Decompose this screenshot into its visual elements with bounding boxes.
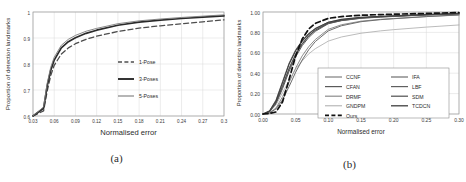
x-axis-title: Normalised error	[100, 128, 157, 137]
x-tick-label: 0.03	[29, 119, 38, 124]
y-tick-label: 0.80	[250, 30, 260, 36]
curves-group	[33, 15, 224, 116]
x-tick-label: 0.30	[454, 117, 464, 123]
legend-label-1-pose: 1-Pose	[139, 59, 156, 65]
y-axis-title: Proportion of detection landmarks	[4, 18, 11, 111]
x-tick-label: 0.18	[135, 119, 144, 124]
curve-3-poses	[33, 16, 224, 116]
x-tick-label: 0.15	[113, 119, 122, 124]
grid-lines	[33, 12, 224, 116]
panel-b: 0.000.050.100.150.200.250.300.000.200.40…	[233, 0, 466, 182]
legend-label-5-poses: 5-Poses	[139, 93, 158, 99]
y-tick-label: 0.00	[250, 112, 260, 118]
x-tick-label: 0.21	[156, 119, 165, 124]
legend-label-ifa: IFA	[412, 74, 420, 80]
x-tick-label: 0.05	[291, 117, 301, 123]
legend-label-cfan: CFAN	[346, 84, 360, 90]
legend-label-lbf: LBF	[412, 84, 422, 90]
legend-box	[318, 68, 449, 118]
curve-1-pose	[33, 20, 224, 116]
panel-a: 0.030.060.090.120.150.180.210.240.270.30…	[0, 0, 233, 182]
x-tick-label: 0.00	[258, 117, 268, 123]
panel-a-caption: (a)	[0, 152, 233, 164]
y-tick-label: 0.8	[24, 63, 31, 68]
x-tick-label: 0.09	[71, 119, 80, 124]
legend: 1-Pose3-Poses5-Poses	[118, 59, 158, 99]
chart-a-svg: 0.030.060.090.120.150.180.210.240.270.30…	[0, 0, 233, 150]
x-axis-title: Normalised error	[337, 128, 385, 135]
x-tick-label: 0.06	[50, 119, 59, 124]
legend-label-drmf: DRMF	[346, 94, 361, 100]
legend-label-ours: Ours	[346, 113, 358, 119]
legend-label-tcdcn: TCDCN	[412, 103, 430, 109]
panel-b-caption: (b)	[233, 158, 466, 170]
y-tick-label: 0.40	[250, 71, 260, 77]
figure-container: 0.030.060.090.120.150.180.210.240.270.30…	[0, 0, 466, 182]
chart-b-svg: 0.000.050.100.150.200.250.300.000.200.40…	[233, 0, 466, 150]
chart-a-plot: 0.030.060.090.120.150.180.210.240.270.30…	[0, 0, 233, 150]
y-tick-label: 0.60	[250, 50, 260, 56]
legend-label-3-poses: 3-Poses	[139, 76, 158, 82]
x-tick-label: 0.27	[198, 119, 207, 124]
legend: CCNFCFANDRMFGNDPMIFALBFSDMTCDCNOurs	[318, 68, 449, 119]
x-tick-label: 0.3	[221, 119, 228, 124]
x-tick-label: 0.24	[177, 119, 186, 124]
y-tick-label: 1	[27, 11, 30, 16]
legend-label-sdm: SDM	[412, 94, 424, 100]
y-axis-title: Proportion of detection landmarks	[236, 20, 242, 107]
y-tick-label: 0.7	[24, 89, 31, 94]
legend-label-ccnf: CCNF	[346, 74, 360, 80]
y-tick-label: 0.6	[24, 115, 31, 120]
y-tick-label: 0.20	[250, 91, 260, 97]
chart-b-plot: 0.000.050.100.150.200.250.300.000.200.40…	[233, 0, 466, 150]
y-tick-label: 1.00	[250, 10, 260, 16]
legend-label-gndpm: GNDPM	[346, 103, 365, 109]
x-tick-label: 0.12	[92, 119, 101, 124]
y-tick-label: 0.9	[24, 37, 31, 42]
